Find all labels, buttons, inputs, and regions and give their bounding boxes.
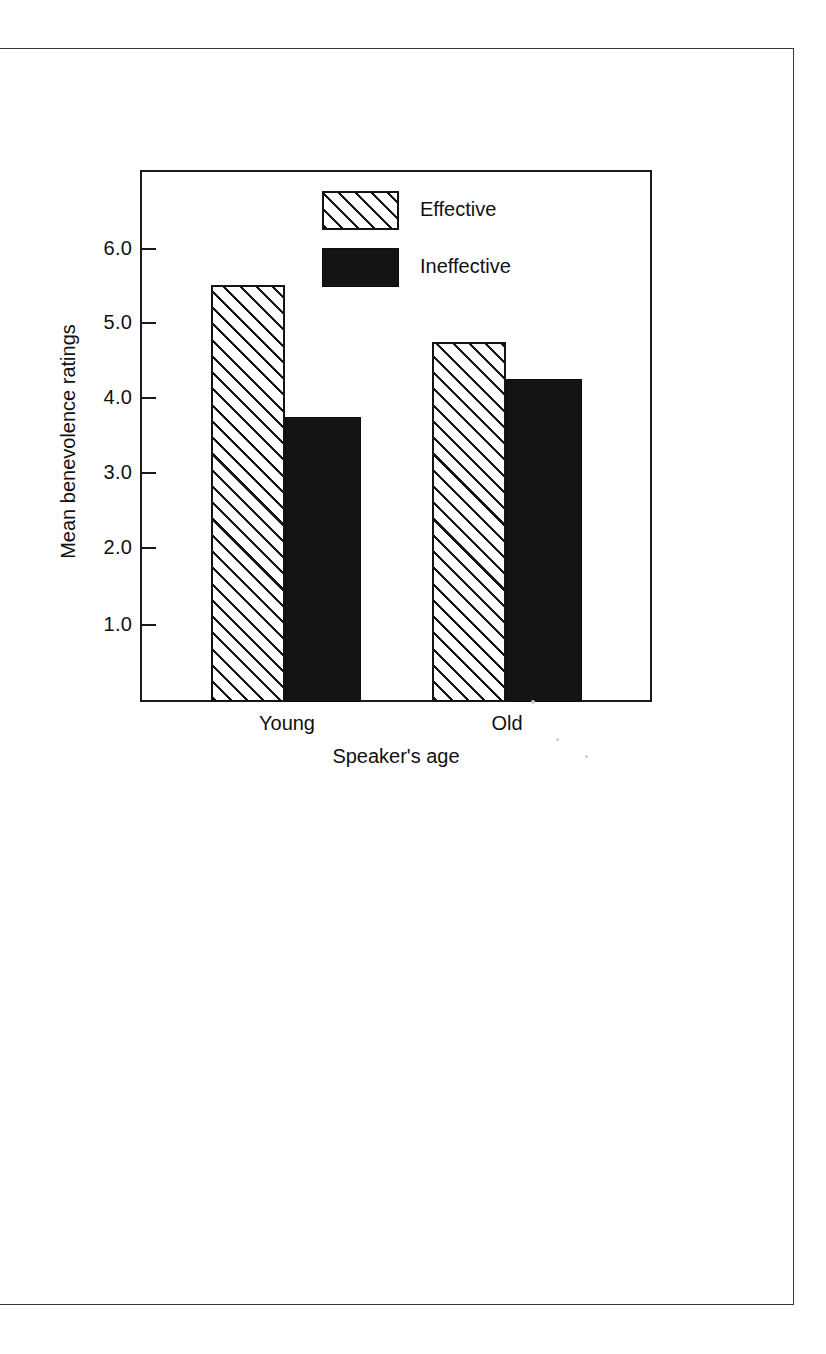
y-tick-label-6: 6.0 <box>72 237 132 260</box>
legend-label-ineffective: Ineffective <box>420 255 511 278</box>
bar-chart-figure: Mean benevolence ratings 6.0 5.0 4.0 3.0… <box>0 0 826 800</box>
y-tick-label-5: 5.0 <box>72 311 132 334</box>
y-tick-label-1: 1.0 <box>72 613 132 636</box>
solid-black-swatch-icon <box>322 248 399 287</box>
bar-old-ineffective <box>506 379 582 702</box>
y-axis-tick-labels: 6.0 5.0 4.0 3.0 2.0 1.0 <box>60 0 132 800</box>
y-tick-label-4: 4.0 <box>72 386 132 409</box>
scan-speck <box>585 755 588 758</box>
legend-item-effective: Effective <box>322 191 602 248</box>
x-category-label-young: Young <box>227 712 347 735</box>
x-category-label-old: Old <box>447 712 567 735</box>
bar-young-effective <box>211 285 285 702</box>
scan-speck <box>556 738 559 741</box>
bar-old-effective <box>432 342 506 702</box>
scan-speck <box>531 700 535 704</box>
y-tick-label-2: 2.0 <box>72 536 132 559</box>
y-tick-label-3: 3.0 <box>72 461 132 484</box>
bar-young-ineffective <box>285 417 361 702</box>
legend-label-effective: Effective <box>420 198 496 221</box>
hatched-diagonal-swatch-icon <box>322 191 399 230</box>
legend-item-ineffective: Ineffective <box>322 248 602 305</box>
chart-legend: Effective Ineffective <box>322 191 602 305</box>
x-axis-title: Speaker's age <box>140 745 652 768</box>
